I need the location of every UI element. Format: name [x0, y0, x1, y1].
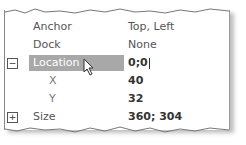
property-value[interactable]: 360; 304: [128, 108, 182, 126]
text-caret: [149, 58, 150, 69]
property-row-dock[interactable]: Dock None: [5, 36, 229, 54]
property-row-x[interactable]: X 40: [5, 72, 229, 90]
property-value-input[interactable]: 0;0: [128, 54, 150, 72]
property-row-size[interactable]: + Size 360; 304: [5, 108, 229, 126]
property-name: Size: [33, 108, 56, 126]
property-name: Location: [33, 54, 80, 72]
property-row-location[interactable]: − Location 0;0: [5, 54, 229, 72]
property-name: Y: [49, 90, 56, 108]
torn-edge-bottom: [5, 126, 229, 136]
expand-icon[interactable]: +: [7, 112, 18, 123]
property-row-y[interactable]: Y 32: [5, 90, 229, 108]
property-value[interactable]: 40: [128, 72, 143, 90]
property-name: Dock: [33, 36, 61, 54]
property-name: X: [49, 72, 57, 90]
collapse-icon[interactable]: −: [7, 58, 18, 69]
property-row-anchor[interactable]: Anchor Top, Left: [5, 18, 229, 36]
torn-edge-top: [5, 6, 229, 16]
property-value[interactable]: Top, Left: [128, 18, 174, 36]
property-value[interactable]: 32: [128, 90, 143, 108]
property-name: Anchor: [33, 18, 72, 36]
property-grid: Anchor Top, Left Dock None − Location 0;…: [4, 10, 230, 130]
property-value[interactable]: None: [128, 36, 157, 54]
